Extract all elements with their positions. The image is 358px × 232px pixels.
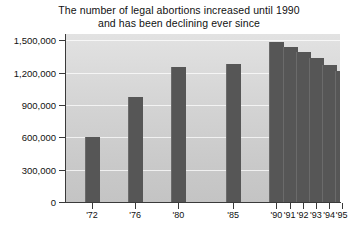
x-tick-label: '91 — [284, 211, 296, 220]
y-tick-mark — [59, 202, 65, 203]
bar — [128, 97, 143, 202]
y-tick-label: 0 — [51, 198, 56, 208]
bar — [171, 67, 186, 202]
x-tick-label: '93 — [310, 211, 322, 220]
abortions-bar-chart: The number of legal abortions increased … — [0, 0, 358, 232]
bar — [226, 64, 241, 202]
chart-title-line-2: and has been declining ever since — [0, 17, 358, 30]
x-tick-label: '95 — [336, 211, 348, 220]
y-tick-mark — [59, 137, 65, 138]
x-tick-mark — [92, 203, 93, 209]
y-tick-label: 900,000 — [22, 101, 56, 111]
y-tick-label: 1,200,000 — [14, 69, 56, 79]
x-tick-label: '90 — [271, 211, 283, 220]
y-tick-mark — [59, 40, 65, 41]
x-axis-line — [65, 202, 341, 203]
x-tick-mark — [135, 203, 136, 209]
y-axis-line — [65, 34, 66, 203]
bar — [85, 137, 100, 202]
chart-title: The number of legal abortions increased … — [0, 4, 358, 30]
x-tick-mark — [316, 203, 317, 209]
y-tick-label: 300,000 — [22, 166, 56, 176]
bar — [335, 71, 340, 202]
x-tick-label: '80 — [172, 211, 184, 220]
x-tick-mark — [303, 203, 304, 209]
x-tick-mark — [276, 203, 277, 209]
x-tick-mark — [233, 203, 234, 209]
x-tick-label: '85 — [227, 211, 239, 220]
plot-area — [66, 34, 340, 202]
x-tick-mark — [178, 203, 179, 209]
x-tick-label: '94 — [323, 211, 335, 220]
x-tick-label: '92 — [297, 211, 309, 220]
y-tick-label: 1,500,000 — [14, 36, 56, 46]
bars-layer — [66, 34, 340, 202]
x-tick-label: '72 — [86, 211, 98, 220]
x-tick-mark — [329, 203, 330, 209]
y-tick-mark — [59, 170, 65, 171]
y-tick-mark — [59, 105, 65, 106]
x-tick-label: '76 — [129, 211, 141, 220]
x-tick-mark — [342, 203, 343, 209]
x-tick-mark — [290, 203, 291, 209]
y-tick-mark — [59, 73, 65, 74]
y-tick-label: 600,000 — [22, 133, 56, 143]
chart-title-line-1: The number of legal abortions increased … — [0, 4, 358, 17]
